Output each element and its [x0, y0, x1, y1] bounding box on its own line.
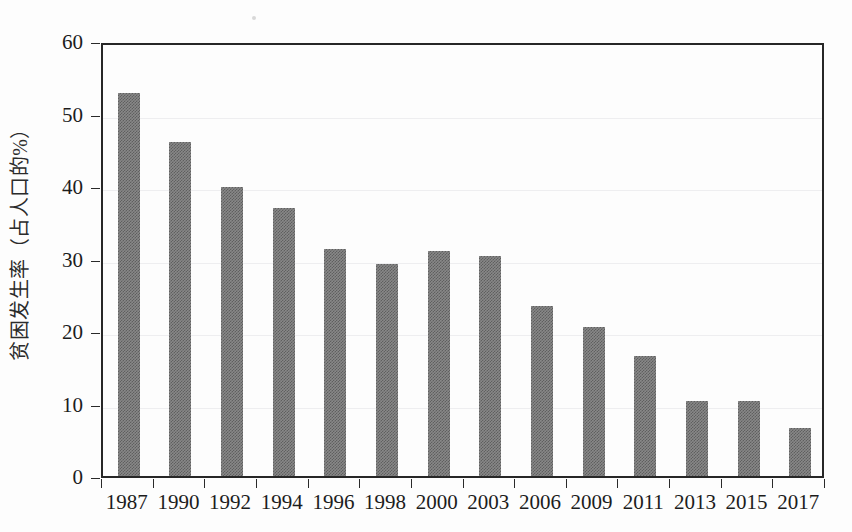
x-tick-mark	[101, 479, 102, 488]
plot-inner	[103, 45, 822, 476]
x-tick-label: 2003	[462, 492, 514, 513]
gridline	[103, 335, 822, 336]
y-tick-mark	[91, 43, 100, 44]
x-tick-label: 2015	[721, 492, 773, 513]
y-tick-label: 0	[37, 467, 83, 488]
bar	[738, 401, 760, 476]
gridline	[103, 408, 822, 409]
x-tick-mark	[204, 479, 205, 488]
bar	[789, 428, 811, 476]
bar	[634, 356, 656, 476]
x-tick-label: 1987	[101, 492, 153, 513]
y-tick-mark	[91, 333, 100, 334]
bar	[324, 249, 346, 476]
scan-speck	[252, 16, 256, 20]
x-tick-label: 2009	[566, 492, 618, 513]
x-tick-mark	[669, 479, 670, 488]
bar	[221, 187, 243, 476]
bar	[376, 264, 398, 476]
bar	[118, 93, 140, 476]
y-axis-title-text: 贫困发生率（占人口的%）	[4, 118, 33, 361]
x-tick-label: 2013	[669, 492, 721, 513]
x-tick-label: 1994	[256, 492, 308, 513]
y-tick-label: 40	[37, 177, 83, 198]
x-tick-mark	[463, 479, 464, 488]
bar	[479, 256, 501, 476]
x-tick-label: 1998	[359, 492, 411, 513]
x-tick-mark	[359, 479, 360, 488]
chart-figure: 贫困发生率（占人口的%） 0102030405060 1987199019921…	[0, 0, 852, 532]
x-tick-label: 1996	[307, 492, 359, 513]
y-tick-label: 10	[37, 395, 83, 416]
y-tick-label: 30	[37, 250, 83, 271]
x-tick-label: 2011	[617, 492, 669, 513]
y-tick-mark	[91, 406, 100, 407]
y-tick-mark	[91, 188, 100, 189]
gridline	[103, 190, 822, 191]
bar	[169, 142, 191, 476]
x-tick-mark	[256, 479, 257, 488]
x-tick-label: 1992	[204, 492, 256, 513]
bar	[686, 401, 708, 476]
y-tick-label: 50	[37, 105, 83, 126]
y-tick-label: 60	[37, 32, 83, 53]
x-tick-mark	[824, 479, 825, 488]
bar	[583, 327, 605, 476]
gridline	[103, 263, 822, 264]
gridline	[103, 118, 822, 119]
y-tick-mark	[91, 116, 100, 117]
x-tick-mark	[153, 479, 154, 488]
x-tick-mark	[721, 479, 722, 488]
y-tick-mark	[91, 478, 100, 479]
bar	[273, 208, 295, 476]
x-tick-label: 2006	[514, 492, 566, 513]
x-tick-mark	[566, 479, 567, 488]
x-tick-mark	[617, 479, 618, 488]
x-tick-mark	[411, 479, 412, 488]
x-tick-mark	[308, 479, 309, 488]
x-tick-label: 1990	[152, 492, 204, 513]
x-tick-mark	[772, 479, 773, 488]
bar	[428, 251, 450, 476]
plot-area	[101, 43, 824, 478]
y-tick-label: 20	[37, 322, 83, 343]
bar	[531, 306, 553, 476]
x-tick-label: 2000	[411, 492, 463, 513]
y-axis-title: 贫困发生率（占人口的%）	[0, 0, 36, 478]
x-tick-label: 2017	[772, 492, 824, 513]
x-tick-mark	[514, 479, 515, 488]
y-tick-mark	[91, 261, 100, 262]
